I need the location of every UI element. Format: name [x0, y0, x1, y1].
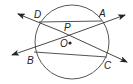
label-D: D — [34, 9, 41, 20]
label-O: O — [60, 38, 68, 49]
geometry-diagram: D A P O B C — [0, 0, 133, 84]
label-B: B — [27, 55, 34, 66]
circle-O — [35, 5, 109, 79]
center-dot — [68, 41, 71, 44]
label-P: P — [64, 22, 71, 33]
chord-BC — [34, 52, 107, 57]
line-DC-right-ray — [60, 31, 127, 62]
diagram-canvas: D A P O B C — [0, 0, 133, 84]
line-BA-right-ray — [67, 15, 125, 36]
label-C: C — [104, 60, 112, 71]
label-A: A — [98, 8, 106, 19]
